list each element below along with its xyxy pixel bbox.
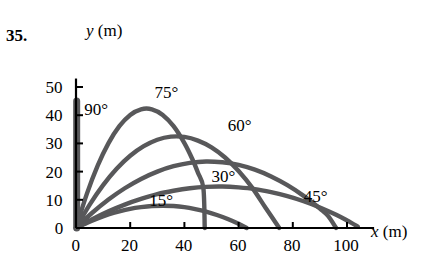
projectile-trajectory-plot (0, 0, 426, 266)
y-tick-label: 50 (46, 79, 63, 96)
angle-label-60deg: 60° (228, 117, 252, 134)
x-tick-label: 100 (333, 237, 359, 254)
x-axis-title: x (m) (371, 223, 407, 240)
angle-label-90deg: 90° (84, 101, 108, 118)
angle-label-30deg: 30° (212, 168, 236, 185)
x-tick-label: 0 (71, 237, 80, 254)
y-axis-title: y (m) (86, 22, 122, 39)
angle-label-75deg: 75° (155, 84, 179, 101)
x-tick-label: 60 (229, 237, 246, 254)
figure-container: 35. y (m) x (m) 02040608010001020304050 … (0, 0, 426, 266)
angle-label-15deg: 15° (149, 192, 173, 209)
y-tick-label: 20 (46, 164, 63, 181)
y-tick-label: 30 (46, 135, 63, 152)
x-tick-label: 20 (121, 237, 138, 254)
x-tick-label: 40 (175, 237, 192, 254)
y-tick-label: 10 (46, 192, 63, 209)
x-tick-label: 80 (284, 237, 301, 254)
angle-label-45deg: 45° (304, 188, 328, 205)
trajectory-curves (76, 101, 358, 228)
y-tick-label: 0 (55, 220, 64, 237)
y-tick-label: 40 (46, 107, 63, 124)
